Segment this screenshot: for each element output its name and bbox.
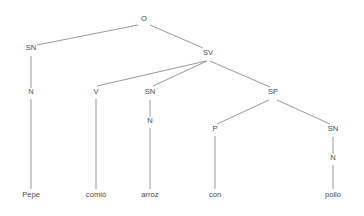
node-sn-prep: SN (328, 124, 339, 133)
node-p: P (212, 124, 217, 133)
edge-sp-to-p (217, 100, 269, 124)
edge-sv-to-v (97, 61, 206, 86)
edge-o-to-sn-subject (37, 25, 138, 45)
node-o: O (141, 14, 147, 23)
node-sn-subject: SN (26, 43, 37, 52)
syntax-tree-canvas: O SN SV N V SN SP N P SN N Pepe comió ar… (0, 0, 364, 216)
node-n-subject: N (28, 87, 33, 96)
node-sv: SV (203, 48, 214, 57)
leaf-comio: comió (86, 190, 106, 199)
node-v: V (93, 87, 99, 96)
edge-o-to-sv (150, 25, 203, 48)
edge-sp-to-sn-prep (277, 100, 330, 124)
leaf-con: con (209, 190, 221, 199)
node-n-prep: N (330, 153, 335, 162)
node-sp: SP (268, 87, 278, 96)
node-n-object: N (147, 116, 152, 125)
tree-leaves: Pepe comió arroz con pollo (22, 190, 341, 199)
tree-edges (31, 25, 333, 189)
syntax-tree-figure: O SN SV N V SN SP N P SN N Pepe comió ar… (0, 0, 364, 216)
node-sn-object: SN (145, 87, 156, 96)
leaf-arroz: arroz (141, 190, 159, 199)
tree-nodes: O SN SV N V SN SP N P SN N (26, 14, 339, 162)
edge-sv-to-sp (210, 61, 270, 87)
edge-sv-to-sn-object (153, 61, 207, 86)
leaf-pollo: pollo (325, 190, 341, 199)
leaf-pepe: Pepe (22, 190, 40, 199)
